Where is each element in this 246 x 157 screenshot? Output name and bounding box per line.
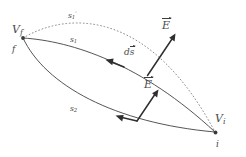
vector-E-lower — [137, 90, 159, 122]
label-potential-Vi: Vi — [215, 113, 225, 126]
vector-ds-upper — [106, 59, 125, 67]
label-path-s1: s1 — [70, 36, 77, 45]
label-point-f: f — [12, 45, 15, 54]
label-potential-Vf: Vf — [12, 24, 23, 37]
physics-field-path-diagram: Vf f Vi i s1′ s1 s2 ds E E — [0, 0, 246, 157]
label-path-s2: s2 — [70, 105, 77, 114]
label-field-E-upper: E — [162, 18, 170, 31]
label-field-E-lower: E — [144, 77, 152, 90]
vertex-point-i — [214, 131, 218, 135]
vector-ds-lower — [116, 115, 138, 122]
label-point-i: i — [216, 140, 219, 149]
label-path-s1-prime: s1′ — [68, 11, 77, 21]
label-displacement-ds: ds — [124, 46, 134, 57]
diagram-canvas — [0, 0, 246, 157]
